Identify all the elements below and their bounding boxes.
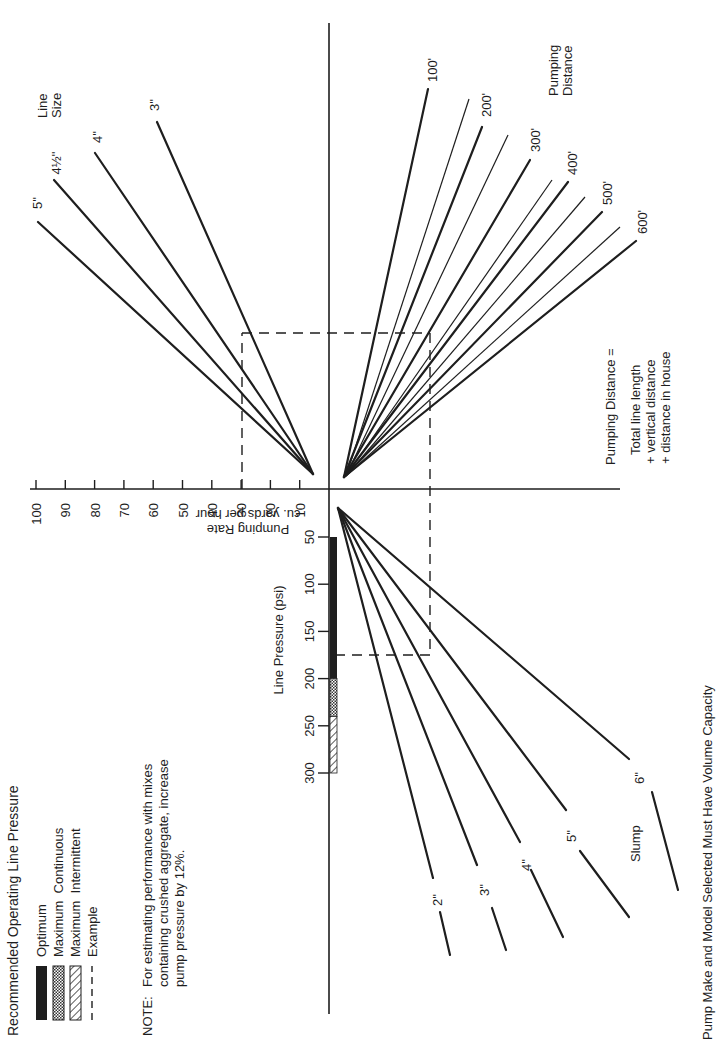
legend-swatch-max-intermittent bbox=[70, 966, 81, 1020]
pumping-distance-line bbox=[344, 160, 530, 477]
note-line-3: pump pressure by 12%. bbox=[172, 850, 187, 987]
pressure-band-optimum bbox=[330, 537, 337, 679]
slump-line-tail bbox=[652, 792, 678, 890]
legend-label-optimum: Optimum bbox=[34, 904, 49, 957]
pressure-tick-label: 150 bbox=[302, 621, 317, 643]
pressure-band-maximum-continuous bbox=[330, 679, 337, 717]
rate-tick-label: 100 bbox=[29, 503, 44, 525]
pumping-distance-definition: Pumping Distance = Total line length + v… bbox=[603, 348, 673, 465]
slump-label: 4'' bbox=[519, 859, 534, 871]
slump-label: 6'' bbox=[632, 772, 647, 784]
line-size-line bbox=[54, 180, 313, 474]
slump-label: 2'' bbox=[430, 894, 445, 906]
rate-tick-label: 80 bbox=[88, 503, 103, 517]
slump-line-tail bbox=[531, 870, 563, 937]
slump-line-tail bbox=[580, 851, 629, 917]
line-pressure-ticks: 50100150200250300 bbox=[302, 530, 329, 784]
line-size-line bbox=[157, 122, 313, 474]
pump-nomograph: 102030405060708090100 50100150200250300 … bbox=[0, 0, 717, 1044]
slump-line bbox=[338, 508, 520, 842]
caption: Pump Make and Model Selected Must Have V… bbox=[700, 685, 715, 1040]
definition-line-2: + vertical distance bbox=[643, 360, 658, 464]
pumping-distance-minor-line bbox=[346, 197, 585, 476]
legend-label-max-intermittent: Maximum Intermittent bbox=[68, 828, 83, 957]
slump-line bbox=[338, 508, 629, 759]
definition-line-1: Total line length bbox=[628, 365, 643, 455]
line-size-label: 4'' bbox=[90, 131, 105, 143]
note-prefix: NOTE: bbox=[140, 996, 155, 1036]
slump-line-tail bbox=[440, 912, 450, 955]
pumping-rate-label-2: cu. yards per hour bbox=[195, 507, 300, 522]
slump-line-tail bbox=[492, 908, 506, 950]
pumping-distance-label: 100' bbox=[425, 58, 440, 82]
pressure-tick-label: 250 bbox=[302, 715, 317, 737]
note-line-1: For estimating performance with mixes bbox=[140, 763, 155, 987]
pressure-tick-label: 50 bbox=[302, 530, 317, 544]
rate-tick-label: 70 bbox=[117, 503, 132, 517]
line-size-label: 4½'' bbox=[49, 151, 64, 174]
legend-label-max-continuous: Maximum Continuous bbox=[51, 827, 66, 957]
rate-tick-label: 60 bbox=[146, 503, 161, 517]
legend-swatch-max-continuous bbox=[53, 966, 64, 1020]
slump-line bbox=[338, 508, 477, 865]
line-pressure-label: Line Pressure (psi) bbox=[271, 585, 286, 694]
definition-line-3: + distance in house bbox=[658, 352, 673, 464]
pumping-distance-label: 300' bbox=[528, 128, 543, 152]
line-size-label: 3'' bbox=[147, 99, 162, 111]
pumping-distance-title-2: Distance bbox=[560, 45, 575, 96]
pumping-distance-line bbox=[344, 182, 568, 477]
pumping-distance-label: 500' bbox=[600, 181, 615, 205]
definition-title: Pumping Distance = bbox=[603, 348, 618, 465]
slump-line bbox=[338, 508, 566, 810]
slump-label: 3'' bbox=[477, 884, 492, 896]
pumping-distance-label: 600' bbox=[635, 210, 650, 234]
pressure-tick-label: 100 bbox=[302, 573, 317, 595]
pumping-distance-label: 200' bbox=[479, 93, 494, 117]
legend-swatch-optimum bbox=[36, 966, 47, 1020]
note: NOTE: For estimating performance with mi… bbox=[140, 759, 187, 1036]
slump-label: 5'' bbox=[564, 830, 579, 842]
pumping-distance-line bbox=[344, 127, 482, 477]
pumping-distance-title-1: Pumping bbox=[546, 45, 561, 96]
line-size-title-1: Line bbox=[35, 93, 50, 118]
rate-tick-label: 50 bbox=[176, 503, 191, 517]
pressure-tick-label: 300 bbox=[302, 762, 317, 784]
legend-title: Recommended Operating Line Pressure bbox=[5, 785, 21, 1036]
line-size-line bbox=[38, 222, 313, 474]
pumping-distance-minor-line bbox=[346, 135, 508, 476]
slump-title: Slump bbox=[628, 825, 643, 862]
note-line-2: containing crushed aggregate, increase bbox=[156, 759, 171, 987]
pressure-band-maximum-intermittent bbox=[330, 716, 337, 773]
pumping-rate-label-1: Pumping Rate bbox=[207, 522, 289, 537]
rate-tick-label: 90 bbox=[58, 503, 73, 517]
legend: Recommended Operating Line Pressure Opti… bbox=[5, 785, 100, 1036]
pressure-tick-label: 200 bbox=[302, 668, 317, 690]
legend-label-example: Example bbox=[85, 906, 100, 957]
line-size-label: 5'' bbox=[30, 197, 45, 209]
slump-line bbox=[338, 508, 433, 878]
line-size-line bbox=[95, 153, 313, 474]
pumping-distance-label: 400' bbox=[565, 151, 580, 175]
line-size-title-2: Size bbox=[49, 93, 64, 118]
pumping-distance-line bbox=[344, 212, 602, 477]
